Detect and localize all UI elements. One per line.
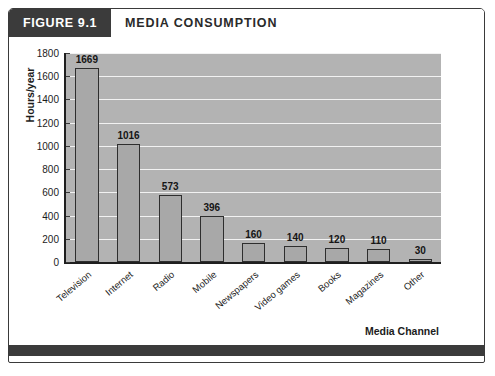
bar[interactable]: 396	[200, 216, 223, 262]
bar[interactable]: 110	[367, 249, 390, 262]
bar-value-label: 573	[162, 181, 179, 192]
chart-region: Hours/year 02004006008001000120014001600…	[9, 37, 484, 340]
figure-header: FIGURE 9.1 MEDIA CONSUMPTION	[9, 9, 484, 38]
bar[interactable]: 120	[325, 248, 348, 262]
bar-slot: 1669	[66, 53, 108, 262]
figure-number-badge: FIGURE 9.1	[9, 9, 111, 37]
y-axis-tick-mark	[66, 262, 70, 263]
figure-container: FIGURE 9.1 MEDIA CONSUMPTION Hours/year …	[8, 8, 485, 363]
bar-value-label: 1016	[117, 130, 139, 141]
x-axis-tick-label: Radio	[151, 269, 177, 293]
bar-slot: 1016	[108, 53, 150, 262]
x-axis-title: Media Channel	[9, 325, 439, 337]
bar-value-label: 30	[415, 245, 426, 256]
bar[interactable]: 573	[159, 195, 182, 262]
bar-slot: 573	[149, 53, 191, 262]
x-axis-tick-label: Internet	[103, 269, 135, 298]
bar-value-label: 396	[204, 202, 221, 213]
x-label-slot: Radio	[147, 266, 189, 326]
y-axis-tick-label: 1800	[21, 48, 59, 59]
x-label-slot: Magazines	[356, 266, 398, 326]
bar-slot: 110	[358, 53, 400, 262]
x-axis-tick-label: Television	[54, 269, 93, 304]
x-label-slot: Video games	[272, 266, 314, 326]
y-axis-tick-label: 400	[21, 210, 59, 221]
bar[interactable]: 1016	[117, 144, 140, 262]
bar-slot: 160	[233, 53, 275, 262]
y-axis-tick-label: 1000	[21, 140, 59, 151]
y-axis-tick-label: 1600	[21, 71, 59, 82]
bar-value-label: 120	[329, 234, 346, 245]
footer-rule	[9, 345, 484, 356]
x-label-slot: Television	[64, 266, 106, 326]
bar-slot: 120	[316, 53, 358, 262]
x-axis-tick-labels: TelevisionInternetRadioMobileNewspapersV…	[64, 266, 439, 326]
x-axis-tick-label: Books	[316, 269, 343, 294]
bar-slot: 140	[274, 53, 316, 262]
y-axis-tick-label: 800	[21, 164, 59, 175]
bar-series: 1669101657339616014012011030	[66, 53, 441, 262]
bar[interactable]: 140	[284, 246, 307, 262]
bar-value-label: 1669	[76, 54, 98, 65]
bar-slot: 396	[191, 53, 233, 262]
bar-value-label: 140	[287, 232, 304, 243]
x-axis-tick-label: Other	[402, 269, 427, 293]
figure-title: MEDIA CONSUMPTION	[111, 9, 484, 37]
y-axis-tick-label: 0	[21, 257, 59, 268]
x-label-slot: Internet	[106, 266, 148, 326]
bar-slot: 30	[399, 53, 441, 262]
bar-value-label: 160	[245, 229, 262, 240]
y-axis-tick-label: 200	[21, 233, 59, 244]
bar[interactable]: 160	[242, 243, 265, 262]
y-axis-tick-label: 1200	[21, 117, 59, 128]
x-label-slot: Other	[397, 266, 439, 326]
plot-area: 1669101657339616014012011030	[64, 53, 441, 264]
x-axis-tick-label: Mobile	[190, 269, 219, 295]
bar[interactable]: 30	[409, 259, 432, 262]
y-axis-tick-labels: 020040060080010001200140016001800	[21, 53, 59, 262]
bar[interactable]: 1669	[75, 68, 98, 262]
bar-value-label: 110	[370, 235, 386, 246]
y-axis-tick-label: 1400	[21, 94, 59, 105]
y-axis-tick-label: 600	[21, 187, 59, 198]
